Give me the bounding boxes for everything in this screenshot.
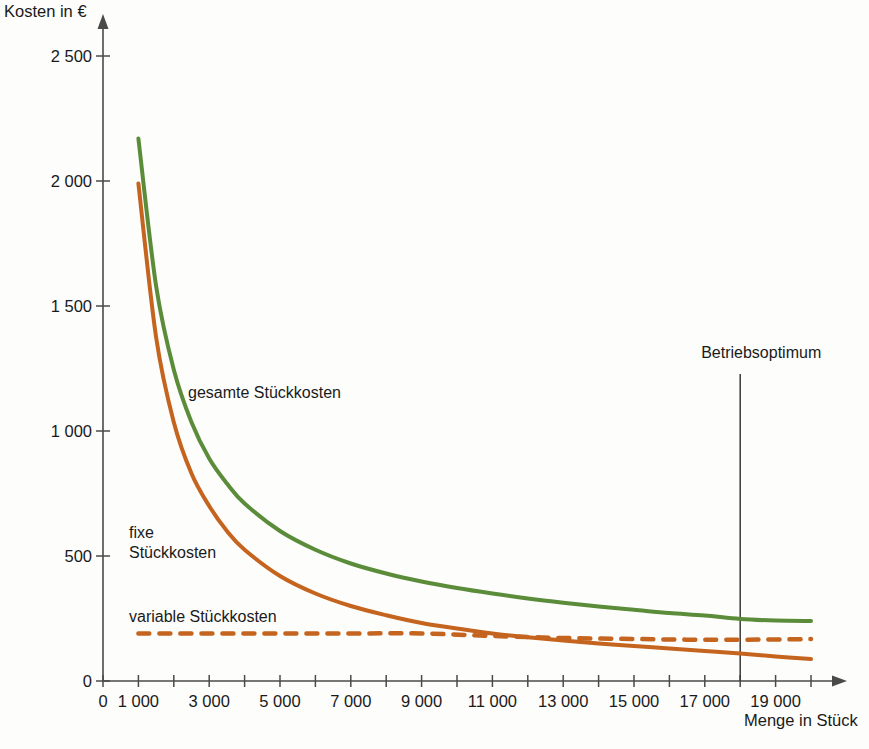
y-axis-arrow <box>98 14 109 29</box>
y-tick-label: 1 500 <box>51 297 92 315</box>
x-ticks <box>103 675 811 687</box>
betriebsoptimum-label: Betriebsoptimum <box>701 344 821 361</box>
x-tick-label: 5 000 <box>259 692 300 710</box>
x-tick-label: 19 000 <box>750 692 800 710</box>
y-axis <box>98 14 109 681</box>
x-axis-title: Menge in Stück <box>744 711 858 729</box>
y-tick-label: 1 000 <box>51 422 92 440</box>
y-tick-labels: 0 500 1 000 1 500 2 000 2 500 <box>51 47 92 690</box>
x-tick-label: 1 000 <box>118 692 159 710</box>
series-line-variable-stueckkosten <box>138 633 811 639</box>
x-tick-label: 9 000 <box>401 692 442 710</box>
series-label-fixe-line2: Stückkosten <box>129 544 216 561</box>
chart-svg: Kosten in € 0 500 1 000 1 500 2 000 <box>0 0 869 749</box>
x-axis <box>103 676 847 687</box>
x-tick-label: 17 000 <box>680 692 730 710</box>
x-tick-label: 11 000 <box>468 692 517 710</box>
series-line-gesamte-stueckkosten <box>138 139 811 622</box>
series-label-fixe-line1: fixe <box>129 524 154 541</box>
x-axis-arrow <box>832 676 847 687</box>
x-tick-label: 15 000 <box>609 692 659 710</box>
y-tick-label: 0 <box>83 672 92 690</box>
series-line-fixe-stueckkosten <box>138 184 811 660</box>
x-tick-label: 3 000 <box>189 692 230 710</box>
x-tick-labels: 01 0003 0005 0007 0009 00011 00013 00015… <box>98 692 800 710</box>
cost-per-unit-chart: Kosten in € 0 500 1 000 1 500 2 000 <box>0 0 869 749</box>
y-axis-title: Kosten in € <box>4 2 87 20</box>
series-label-gesamte-stueckkosten: gesamte Stückkosten <box>188 384 341 401</box>
y-tick-label: 500 <box>64 547 92 565</box>
x-tick-label: 0 <box>98 692 107 710</box>
y-tick-label: 2 000 <box>51 172 92 190</box>
series-label-variable-stueckkosten: variable Stückkosten <box>129 608 277 625</box>
y-tick-label: 2 500 <box>51 47 92 65</box>
x-tick-label: 7 000 <box>330 692 371 710</box>
x-tick-label: 13 000 <box>538 692 588 710</box>
